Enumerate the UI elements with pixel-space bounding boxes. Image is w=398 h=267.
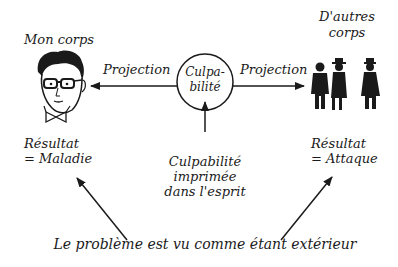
guilt-source-line1: Culpabilité bbox=[155, 155, 255, 169]
right-result-line2: = Attaque bbox=[311, 152, 378, 166]
left-result-line1: Résultat bbox=[24, 137, 79, 151]
circle-label-line1: Culpa- bbox=[180, 66, 230, 79]
left-projection-label: Projection bbox=[103, 63, 170, 77]
guilt-source-line2: imprimée bbox=[155, 170, 255, 184]
right-result-line1: Résultat bbox=[311, 137, 366, 151]
left-node-title: Mon corps bbox=[24, 33, 94, 47]
guilt-source-line3: dans l'esprit bbox=[155, 185, 255, 199]
bottom-caption: Le problème est vu comme étant extérieur bbox=[40, 237, 370, 252]
right-node-title-line2: corps bbox=[312, 26, 382, 40]
circle-label-line2: bilité bbox=[180, 81, 230, 94]
external-to-illness-arrow bbox=[77, 178, 127, 240]
right-node-title-line1: D'autres bbox=[312, 10, 382, 24]
external-to-attack-arrow bbox=[281, 177, 332, 240]
guilt-projection-diagram: Mon corps Projection Résultat = Maladie … bbox=[0, 0, 398, 267]
face-with-glasses-icon bbox=[38, 50, 86, 122]
right-projection-label: Projection bbox=[240, 63, 307, 77]
silhouettes-people-icon bbox=[311, 58, 380, 110]
left-result-line2: = Maladie bbox=[24, 152, 92, 166]
